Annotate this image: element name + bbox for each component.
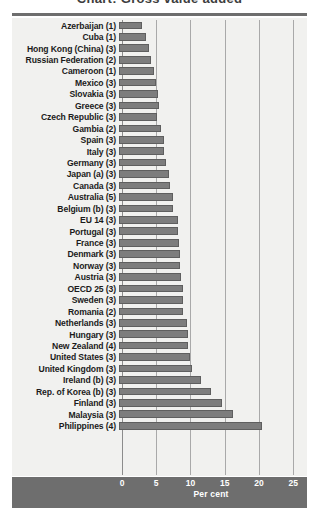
bar-track xyxy=(119,249,307,260)
category-label: Ireland (b) (3) xyxy=(12,375,119,385)
bar-track xyxy=(119,306,307,317)
bar xyxy=(119,410,233,418)
category-label: Australia (5) xyxy=(12,192,119,202)
bar xyxy=(119,170,169,178)
chart-row: Azerbaijan (1) xyxy=(12,20,307,31)
bar-track xyxy=(119,214,307,225)
bar xyxy=(119,342,188,350)
bar-track xyxy=(119,169,307,180)
chart-row: Russian Federation (2) xyxy=(12,54,307,65)
category-label: EU 14 (3) xyxy=(12,215,119,225)
bar xyxy=(119,239,179,247)
bar xyxy=(119,422,262,430)
bar xyxy=(119,44,149,52)
chart-row: Australia (5) xyxy=(12,192,307,203)
bar xyxy=(119,388,211,396)
bar-track xyxy=(119,112,307,123)
chart-row: EU 14 (3) xyxy=(12,214,307,225)
bar xyxy=(119,182,170,190)
chart-row: Italy (3) xyxy=(12,146,307,157)
category-label: Rep. of Korea (b) (3) xyxy=(12,387,119,397)
chart-row: Canada (3) xyxy=(12,180,307,191)
bar xyxy=(119,319,187,327)
chart-row: Finland (3) xyxy=(12,397,307,408)
chart-row: Ireland (b) (3) xyxy=(12,375,307,386)
category-label: Cuba (1) xyxy=(12,32,119,42)
bar xyxy=(119,125,161,133)
category-label: Russian Federation (2) xyxy=(12,55,119,65)
bar-track xyxy=(119,146,307,157)
chart-row: Austria (3) xyxy=(12,272,307,283)
x-tick-label: 25 xyxy=(288,478,297,488)
bar xyxy=(119,285,183,293)
category-label: Azerbaijan (1) xyxy=(12,21,119,31)
bar xyxy=(119,193,173,201)
bar-track xyxy=(119,375,307,386)
bar-track xyxy=(119,157,307,168)
category-label: Czech Republic (3) xyxy=(12,112,119,122)
bar-track xyxy=(119,31,307,42)
x-tick-label: 10 xyxy=(186,478,195,488)
chart-row: Romania (2) xyxy=(12,306,307,317)
chart-row: United Kingdom (3) xyxy=(12,363,307,374)
chart-row: Germany (3) xyxy=(12,157,307,168)
bar-track xyxy=(119,386,307,397)
chart-row: Malaysia (3) xyxy=(12,409,307,420)
bar xyxy=(119,136,164,144)
bar-track xyxy=(119,409,307,420)
bar-track xyxy=(119,283,307,294)
bar xyxy=(119,22,142,30)
bar-track xyxy=(119,192,307,203)
chart-row: Portugal (3) xyxy=(12,226,307,237)
category-label: Italy (3) xyxy=(12,147,119,157)
chart-row: United States (3) xyxy=(12,352,307,363)
chart-row: Cuba (1) xyxy=(12,31,307,42)
bar xyxy=(119,308,183,316)
category-label: Netherlands (3) xyxy=(12,318,119,328)
bar-track xyxy=(119,134,307,145)
chart-row: Netherlands (3) xyxy=(12,317,307,328)
bar xyxy=(119,227,178,235)
bar xyxy=(119,90,158,98)
bar xyxy=(119,102,159,110)
chart-row: Gambia (2) xyxy=(12,123,307,134)
bar xyxy=(119,33,146,41)
chart-row: Sweden (3) xyxy=(12,295,307,306)
bar-track xyxy=(119,340,307,351)
chart-row: Czech Republic (3) xyxy=(12,112,307,123)
bar-track xyxy=(119,77,307,88)
chart-row: Spain (3) xyxy=(12,134,307,145)
bar xyxy=(119,216,178,224)
category-label: Norway (3) xyxy=(12,261,119,271)
category-label: France (3) xyxy=(12,238,119,248)
bar-track xyxy=(119,203,307,214)
bar xyxy=(119,159,166,167)
bar-track xyxy=(119,420,307,431)
bar-track xyxy=(119,180,307,191)
bar-track xyxy=(119,89,307,100)
category-label: Portugal (3) xyxy=(12,227,119,237)
bar xyxy=(119,56,151,64)
chart-row: Norway (3) xyxy=(12,260,307,271)
category-label: Germany (3) xyxy=(12,158,119,168)
category-label: Gambia (2) xyxy=(12,124,119,134)
bar-track xyxy=(119,66,307,77)
x-axis-title: Per cent xyxy=(122,489,300,499)
bar xyxy=(119,147,164,155)
chart-row: Belgium (b) (3) xyxy=(12,203,307,214)
bar xyxy=(119,296,183,304)
chart-row: France (3) xyxy=(12,237,307,248)
bar-track xyxy=(119,317,307,328)
bar-rows: Azerbaijan (1)Cuba (1)Hong Kong (China) … xyxy=(12,20,307,432)
bar-track xyxy=(119,43,307,54)
bar-track xyxy=(119,123,307,134)
title-divider-rule xyxy=(12,13,307,16)
category-label: Finland (3) xyxy=(12,398,119,408)
chart-row: Cameroon (1) xyxy=(12,66,307,77)
bar xyxy=(119,205,173,213)
bar xyxy=(119,399,222,407)
bar-track xyxy=(119,329,307,340)
bar-track xyxy=(119,397,307,408)
category-label: New Zealand (4) xyxy=(12,341,119,351)
x-tick-label: 15 xyxy=(220,478,229,488)
